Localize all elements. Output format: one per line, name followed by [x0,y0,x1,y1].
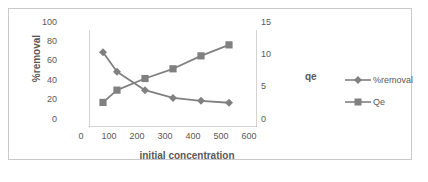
data-point-marker [225,99,233,107]
x-axis-title: initial concentration [107,150,267,161]
chart-legend: %removal Qe [345,69,428,113]
x-axis-tick-5: 500 [208,131,234,141]
data-point-marker [197,52,204,59]
legend-item-removal[interactable]: %removal [345,69,428,91]
data-point-marker [113,87,120,94]
series-canvas [89,30,257,127]
legend-item-qe[interactable]: Qe [345,91,428,113]
x-axis-tick-2: 200 [124,131,150,141]
data-point-marker [225,41,232,48]
x-axis-tick-0: 0 [68,131,94,141]
x-axis-tick-1: 100 [96,131,122,141]
y-axis-tick-left-0: 0 [33,114,57,124]
data-point-marker [169,65,176,72]
y-axis-tick-right-2: 10 [261,49,285,59]
x-axis-tick-4: 400 [180,131,206,141]
x-axis-tick-6: 600 [236,131,262,141]
diamond-marker-icon [345,74,371,86]
square-marker-icon [345,96,371,108]
y-axis-title-left: %removal [31,26,42,92]
legend-label-qe: Qe [373,97,385,107]
y-axis-title-right: qe [305,71,317,82]
data-point-marker [141,75,148,82]
data-point-marker [169,94,177,102]
y-axis-tick-left-1: 20 [33,94,57,104]
plot-area [89,30,257,127]
data-point-marker [197,97,205,105]
y-axis-tick-right-0: 0 [261,114,285,124]
chart-figure: 100 80 60 40 20 0 15 10 5 0 0 100 200 30… [0,0,428,182]
legend-label-removal: %removal [373,75,413,85]
x-axis-tick-3: 300 [152,131,178,141]
y-axis-tick-right-3: 15 [261,17,285,27]
series-removal [99,48,233,106]
chart-frame: 100 80 60 40 20 0 15 10 5 0 0 100 200 30… [8,8,412,160]
data-point-marker [99,99,106,106]
y-axis-tick-right-1: 5 [261,81,285,91]
